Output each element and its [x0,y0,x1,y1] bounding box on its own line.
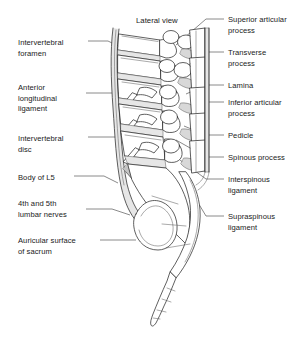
label-transverse-process: Transverse process [228,48,266,69]
label-lamina: Lamina [228,81,253,92]
label-anterior-longitudinal-ligament: Anterior longitudinal ligament [18,83,57,115]
label-intervertebral-disc: Intervertebral disc [18,134,63,155]
label-lumbar-nerves: 4th and 5th lumbar nerves [18,199,67,220]
label-pedicle: Pedicle [228,131,253,142]
label-interspinous-ligament: Interspinous ligament [228,175,270,196]
label-body-of-l5: Body of L5 [18,173,55,184]
label-intervertebral-foramen: Intervertebral foramen [18,38,63,59]
spinal-column-drawing [111,28,209,326]
anatomy-figure: Lateral view Intervertebral foramen Ante… [0,0,303,337]
figure-title: Lateral view [136,15,178,26]
label-supraspinous-ligament: Supraspinous ligament [228,212,275,233]
label-inferior-articular-process: Inferior articular process [228,98,282,119]
sacrum [128,164,200,278]
label-superior-articular-process: Superior articular process [228,15,287,36]
label-auricular-surface-of-sacrum: Auricular surface of sacrum [18,236,76,257]
label-spinous-process: Spinous process [228,153,285,164]
coccyx [151,272,176,326]
